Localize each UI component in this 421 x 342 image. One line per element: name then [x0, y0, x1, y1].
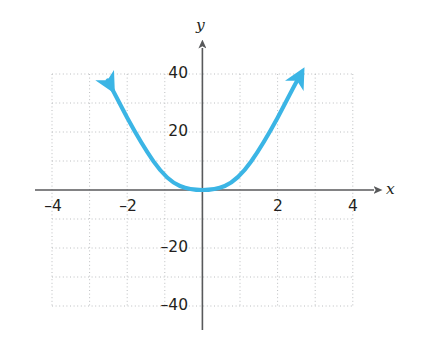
x-axis-label: x: [386, 182, 395, 198]
y-tick-label-20: 20: [140, 124, 188, 140]
x-tick-label-neg4: –4: [38, 199, 68, 215]
y-tick-label-neg20: –20: [132, 240, 188, 256]
x-tick-label-4: 4: [341, 199, 365, 215]
y-tick-label-40: 40: [140, 66, 188, 82]
graph-figure: 40 20 –20 –40 –4 –2 2 4 y x: [0, 0, 421, 342]
x-tick-label-neg2: –2: [113, 199, 143, 215]
y-axis-label: y: [196, 18, 205, 34]
x-tick-label-2: 2: [266, 199, 290, 215]
plot-canvas: [0, 0, 421, 342]
y-tick-label-neg40: –40: [132, 298, 188, 314]
